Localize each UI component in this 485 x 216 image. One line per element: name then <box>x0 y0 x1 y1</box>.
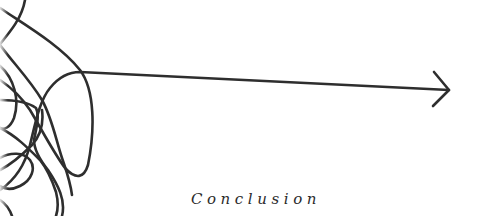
tangle-to-arrow-icon <box>0 0 485 216</box>
left-edge-fade <box>0 0 8 216</box>
illustration <box>0 0 485 216</box>
caption-title: Conclusion <box>0 190 485 208</box>
